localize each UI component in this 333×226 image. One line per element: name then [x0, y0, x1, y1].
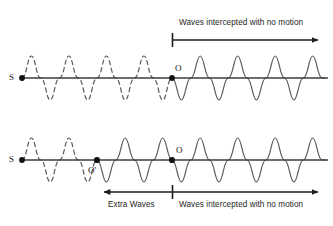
top-source-dot	[19, 75, 25, 81]
top-source-label: S	[9, 73, 14, 82]
bottom-source-label: S	[9, 155, 14, 164]
top-annotation-label: Waves intercepted with no motion	[179, 19, 303, 27]
top-annotation-arrow	[173, 33, 319, 47]
bottom-annotation-label: Waves intercepted with no motion	[179, 201, 303, 209]
extra-waves-label: Extra Waves	[108, 201, 155, 209]
bottom-observer-end-dot	[169, 157, 175, 163]
top-observer-dot	[169, 75, 175, 81]
bottom-source-dot	[19, 157, 25, 163]
bottom-observer-start-label: O'	[88, 166, 96, 175]
bottom-observer-start-dot	[94, 157, 100, 163]
bottom-annotation-arrow	[104, 185, 318, 199]
diagram-canvas: Waves intercepted with no motion S O S O…	[0, 0, 333, 226]
wave-diagram-svg	[0, 0, 333, 226]
bottom-panel-group	[19, 138, 328, 199]
bottom-observer-end-label: O	[176, 146, 183, 155]
top-observer-label: O	[175, 64, 182, 73]
top-panel-group	[19, 33, 328, 100]
